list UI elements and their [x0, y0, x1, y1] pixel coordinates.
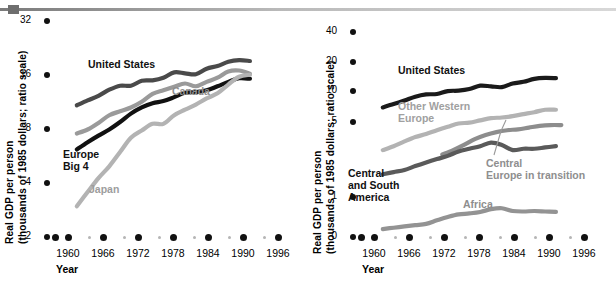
series-label-europe-big-4: Europe Big 4: [63, 148, 99, 172]
chart-panel-right: Real GDP per person (thousands of 1985 d…: [308, 0, 616, 285]
chart-panel-left: Real GDP per person (thousands of 1985 d…: [0, 0, 308, 285]
series-label-united-states: United States: [88, 58, 155, 70]
series-label-canada: Canada: [172, 85, 210, 97]
series-line: [383, 208, 556, 229]
annotation-leader-line: [494, 120, 506, 155]
plot-area-right: [308, 0, 616, 285]
series-label-other-western-europe: Other Western Europe: [398, 100, 470, 124]
plot-area-left: [0, 0, 308, 285]
series-label-united-states: United States: [398, 64, 465, 76]
series-label-japan: Japan: [89, 183, 119, 195]
series-label-central-europe-in-transition: Central Europe in transition: [486, 157, 585, 181]
series-label-central-and-south-america: Central and South America: [348, 167, 399, 203]
series-label-africa: Africa: [463, 198, 493, 210]
